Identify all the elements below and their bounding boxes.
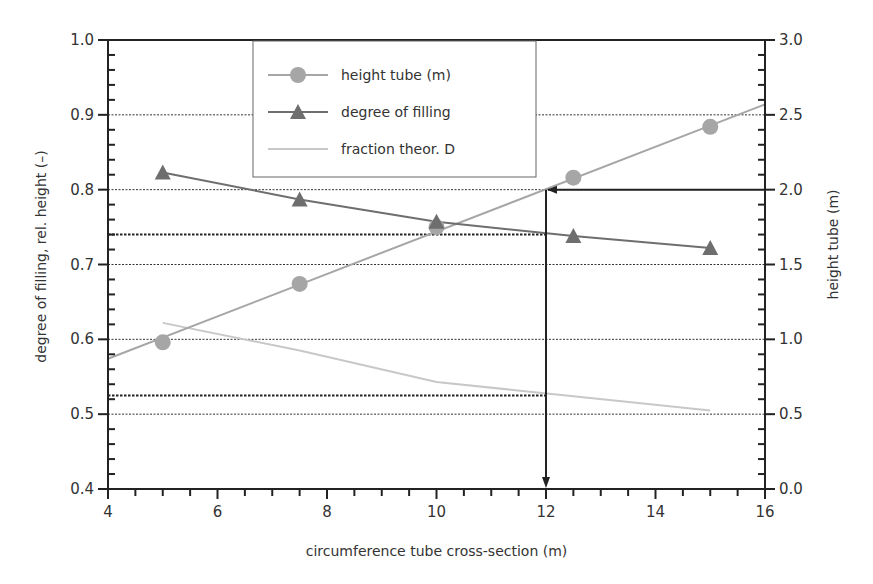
x-tick-label: 10 — [427, 503, 446, 521]
y-right-axis-title: height tube (m) — [825, 190, 841, 300]
x-tick-label: 16 — [755, 503, 774, 521]
circle-marker — [155, 334, 171, 350]
y-left-tick-label: 0.6 — [70, 330, 94, 348]
chart: height tube (m)degree of fillingfraction… — [0, 0, 873, 584]
circle-marker — [292, 276, 308, 292]
x-tick-label: 8 — [322, 503, 332, 521]
series-fraction-theor-d — [163, 323, 711, 411]
legend-circle-icon — [290, 67, 306, 83]
series-degree-of-filling-line — [163, 172, 711, 248]
x-tick-label: 12 — [536, 503, 555, 521]
y-left-tick-label: 0.4 — [70, 480, 94, 498]
y-right-tick-label: 0.0 — [779, 480, 803, 498]
y-left-tick-label: 0.7 — [70, 256, 94, 274]
circle-marker — [702, 119, 718, 135]
legend-label: degree of filling — [341, 104, 451, 120]
y-left-tick-label: 0.5 — [70, 405, 94, 423]
legend: height tube (m)degree of fillingfraction… — [253, 41, 536, 177]
y-left-tick-label: 0.8 — [70, 181, 94, 199]
x-tick-label: 14 — [646, 503, 665, 521]
legend-label: height tube (m) — [341, 67, 451, 83]
circle-marker — [565, 170, 581, 186]
y-right-tick-label: 1.5 — [779, 256, 803, 274]
y-left-tick-label: 1.0 — [70, 31, 94, 49]
y-left-tick-label: 0.9 — [70, 106, 94, 124]
y-right-tick-label: 0.5 — [779, 405, 803, 423]
triangle-marker — [155, 164, 171, 179]
annotation-arrow — [542, 186, 765, 488]
x-axis-title: circumference tube cross-section (m) — [306, 543, 568, 559]
y-right-tick-label: 2.5 — [779, 106, 803, 124]
x-tick-label: 6 — [213, 503, 223, 521]
y-right-tick-label: 1.0 — [779, 330, 803, 348]
y-right-tick-label: 3.0 — [779, 31, 803, 49]
y-left-axis-title: degree of filling, rel. height (–) — [33, 150, 49, 362]
legend-label: fraction theor. D — [341, 141, 455, 157]
y-right-tick-label: 2.0 — [779, 181, 803, 199]
x-tick-label: 4 — [103, 503, 113, 521]
